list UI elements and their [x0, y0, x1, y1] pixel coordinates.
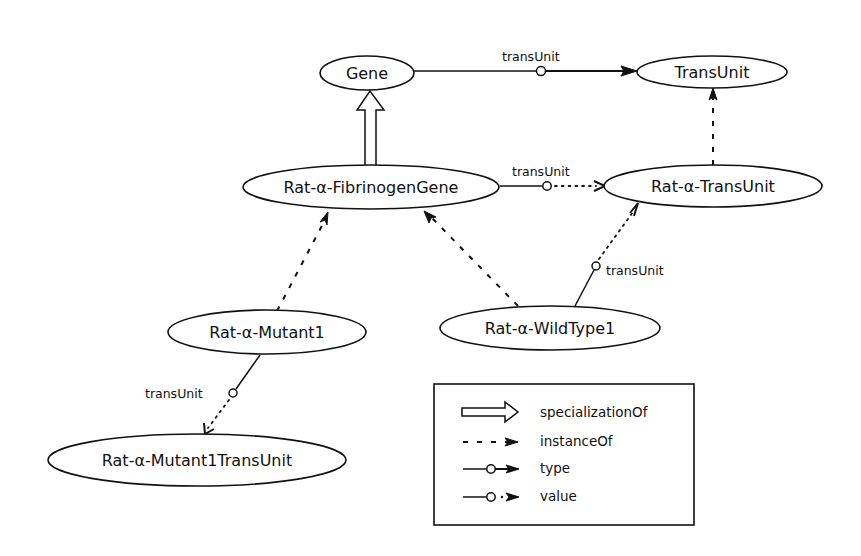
edge-mutant1-to-mutant1transunit: transUnit [145, 355, 260, 434]
node-gene: Gene [320, 56, 414, 90]
arrowhead-icon [320, 212, 328, 225]
edge-label: transUnit [502, 49, 560, 64]
node-label: Rat-α-TransUnit [651, 177, 775, 196]
node-transunit: TransUnit [637, 56, 787, 88]
node-rat-mutant1: Rat-α-Mutant1 [168, 310, 366, 354]
node-label: Rat-α-Mutant1TransUnit [102, 451, 292, 470]
node-rat-mutant1-transunit: Rat-α-Mutant1TransUnit [48, 434, 346, 486]
value-circle-icon [229, 389, 237, 397]
node-rat-wildtype1: Rat-α-WildType1 [440, 306, 660, 350]
edge-gene-to-transunit: transUnit [414, 49, 637, 76]
circle-icon [487, 493, 495, 501]
edge-wildtype1-instance-of-fibrinogen [424, 211, 518, 306]
node-rat-transunit: Rat-α-TransUnit [604, 165, 822, 207]
edge-label: transUnit [512, 164, 570, 179]
edge-mutant1-instance-of-fibrinogen [277, 212, 328, 311]
node-label: Rat-α-Mutant1 [209, 323, 325, 342]
node-label: Gene [346, 64, 388, 83]
edge-fibrinogen-to-rattransunit: transUnit [500, 164, 605, 191]
circle-icon [487, 465, 495, 473]
legend: specializationOf instanceOf type value [434, 384, 694, 525]
value-circle-icon [543, 182, 551, 190]
edge-fibrinogen-specialization-of-gene [357, 91, 384, 166]
edge-label: transUnit [606, 263, 664, 278]
edge-rattransunit-instance-of-transunit [709, 88, 717, 165]
node-label: Rat-α-WildType1 [485, 319, 615, 338]
arrowhead-icon [204, 423, 214, 434]
value-circle-icon [592, 262, 600, 270]
edge-label: transUnit [145, 386, 203, 401]
legend-label: type [540, 460, 570, 476]
legend-label: value [540, 488, 577, 504]
node-rat-fibrinogen-gene: Rat-α-FibrinogenGene [243, 165, 499, 209]
hollow-arrow-icon [357, 91, 384, 166]
node-label: TransUnit [674, 63, 750, 82]
ontology-diagram: transUnit transUnit transUnit [0, 0, 861, 556]
type-circle-icon [537, 67, 546, 76]
edge-wildtype1-to-rattransunit: transUnit [575, 203, 664, 306]
legend-label: specializationOf [540, 404, 649, 420]
legend-label: instanceOf [540, 433, 614, 449]
node-label: Rat-α-FibrinogenGene [284, 178, 459, 197]
